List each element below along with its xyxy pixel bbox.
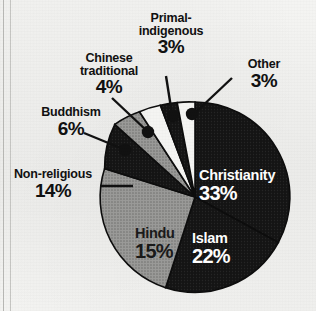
label-hindu-name: Hindu <box>135 226 175 241</box>
label-chinese-traditional-percent: 4% <box>62 77 156 96</box>
label-hindu: Hindu 15% <box>135 226 175 261</box>
chart-page: Primal- indigenous 3% Chinese traditiona… <box>0 0 316 311</box>
label-chinese-traditional: Chinese traditional 4% <box>62 52 156 96</box>
label-christianity: Christianity 33% <box>199 168 275 203</box>
label-other-percent: 3% <box>228 71 300 90</box>
label-other: Other 3% <box>228 58 300 90</box>
label-non-religious-name: Non-religious <box>6 168 100 181</box>
callout-dot-primal-indigenous <box>167 110 179 122</box>
label-primal-indigenous: Primal- indigenous 3% <box>126 12 216 56</box>
label-primal-indigenous-name-line1: Primal- <box>126 12 216 25</box>
label-non-religious: Non-religious 14% <box>6 168 100 200</box>
label-islam-name: Islam <box>192 231 230 246</box>
label-buddhism-percent: 6% <box>30 119 112 138</box>
callout-dot-chinese-traditional <box>142 126 154 138</box>
callout-dot-buddhism <box>119 144 131 156</box>
label-chinese-traditional-name-line1: Chinese <box>62 52 156 65</box>
label-christianity-percent: 33% <box>199 183 275 203</box>
label-hindu-percent: 15% <box>135 241 175 261</box>
label-buddhism-name: Buddhism <box>30 106 112 119</box>
callout-dot-other <box>186 108 198 120</box>
label-christianity-name: Christianity <box>199 168 275 183</box>
label-islam-percent: 22% <box>192 246 230 266</box>
label-other-name: Other <box>228 58 300 71</box>
label-buddhism: Buddhism 6% <box>30 106 112 138</box>
label-non-religious-percent: 14% <box>6 181 100 200</box>
label-islam: Islam 22% <box>192 231 230 266</box>
